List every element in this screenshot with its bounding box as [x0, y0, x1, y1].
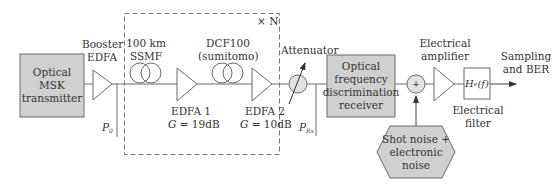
- transmitter-label: Optical MSK transmitter: [20, 54, 84, 117]
- booster-edfa-icon: [93, 70, 112, 100]
- booster-label-line1: Booster: [82, 38, 122, 51]
- noise-label-line2: electronic: [389, 146, 442, 159]
- receiver-label-line1: Optical: [342, 60, 380, 73]
- filter-symbol-arg: (f): [477, 77, 489, 90]
- receiver-label-line3: discrimination: [323, 86, 400, 99]
- p0-subscript: 0: [109, 127, 113, 134]
- transmitter-label-line2: transmitter: [22, 92, 83, 105]
- ssmf-label-line1: 100 km: [125, 37, 167, 50]
- sampling-ber-label-line1: Sampling: [500, 50, 552, 63]
- summer-plus-symbol: +: [407, 75, 425, 93]
- ssmf-label: 100 km SSMF: [125, 37, 167, 63]
- prx-subscript: Rx: [306, 127, 314, 134]
- electrical-filter-label: Electrical filter: [452, 104, 504, 130]
- edfa1-gain: G = 19dB: [168, 118, 214, 131]
- dcf-label-line2: (sumitomo): [198, 50, 258, 63]
- edfa2-label-line1: EDFA 2: [240, 105, 290, 118]
- filter-transfer-function: He(f): [464, 68, 490, 99]
- edfa2-gain-value: = 10dB: [248, 118, 291, 130]
- p0-label: P0: [102, 121, 113, 137]
- edfa1-label: EDFA 1 G = 19dB: [168, 105, 214, 131]
- booster-label-line2: EDFA: [82, 51, 122, 64]
- system-diagram: Optical MSK transmitter Booster EDFA P0 …: [0, 0, 552, 189]
- filter-symbol: H: [465, 77, 474, 90]
- electrical-amplifier-icon: [434, 67, 454, 101]
- noise-label: Shot noise + electronic noise: [377, 126, 455, 178]
- dcf-label-line1: DCF100: [198, 37, 258, 50]
- electrical-amplifier-label-line1: Electrical: [413, 37, 477, 50]
- ssmf-label-line2: SSMF: [125, 50, 167, 63]
- receiver-label: Optical frequency discrimination receive…: [327, 55, 395, 117]
- edfa2-icon: [252, 68, 272, 101]
- receiver-label-line4: receiver: [339, 99, 383, 112]
- noise-label-line3: noise: [402, 159, 430, 172]
- edfa1-label-line1: EDFA 1: [168, 105, 214, 118]
- transmitter-label-line1: Optical MSK: [20, 66, 84, 92]
- ssmf-fiber-coil-icon: [130, 63, 161, 83]
- electrical-filter-label-line1: Electrical: [452, 104, 504, 117]
- electrical-amplifier-label-line2: amplifier: [413, 50, 477, 63]
- edfa2-label: EDFA 2 G = 10dB: [240, 105, 290, 131]
- sampling-ber-label-line2: and BER: [500, 63, 552, 76]
- dcf-label: DCF100 (sumitomo): [198, 37, 258, 63]
- edfa1-gain-value: = 19dB: [176, 118, 219, 130]
- booster-label: Booster EDFA: [82, 38, 122, 64]
- prx-label: PRx: [299, 121, 314, 137]
- noise-label-line1: Shot noise +: [382, 133, 450, 146]
- dcf-fiber-coil-icon: [212, 63, 243, 83]
- repeat-count-label: × N: [257, 15, 278, 28]
- receiver-label-line2: frequency: [334, 73, 387, 86]
- edfa1-icon: [177, 68, 197, 101]
- sampling-ber-label: Sampling and BER: [500, 50, 552, 76]
- attenuator-icon: [289, 75, 307, 93]
- edfa2-gain: G = 10dB: [240, 118, 290, 131]
- electrical-amplifier-label: Electrical amplifier: [413, 37, 477, 63]
- electrical-filter-label-line2: filter: [452, 117, 504, 130]
